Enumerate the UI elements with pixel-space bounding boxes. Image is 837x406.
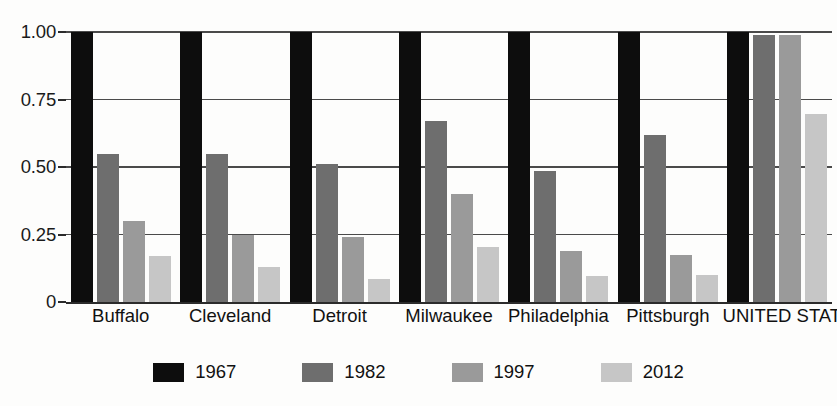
plot-area [66, 32, 832, 302]
legend-item: 1967 [153, 363, 236, 382]
bar-1967 [290, 32, 312, 302]
bar-1982 [97, 154, 119, 303]
bar-1997 [779, 35, 801, 302]
legend-label: 1997 [494, 363, 535, 382]
legend-swatch-icon [601, 363, 632, 382]
legend-item: 2012 [601, 363, 684, 382]
legend-item: 1997 [452, 363, 535, 382]
legend-label: 1967 [195, 363, 236, 382]
bar-1982 [644, 135, 666, 302]
bar-1967 [508, 32, 530, 302]
bar-2012 [696, 275, 718, 302]
bar-group [723, 32, 832, 302]
legend-label: 1982 [344, 363, 385, 382]
y-axis: 1.000.750.500.250 [0, 0, 56, 330]
bar-1997 [451, 194, 473, 302]
y-axis-tick-mark [58, 234, 66, 236]
bar-1982 [534, 171, 556, 302]
x-axis-tick-label: UNITED STATES [723, 306, 832, 326]
bar-1967 [71, 32, 93, 302]
x-axis-tick-label: Milwaukee [394, 306, 503, 326]
y-axis-tick-label: 0.50 [0, 158, 56, 177]
x-axis: BuffaloClevelandDetroitMilwaukeePhiladel… [66, 306, 832, 336]
bar-1997 [560, 251, 582, 302]
y-axis-tick-mark [58, 301, 66, 303]
bar-1982 [753, 35, 775, 302]
y-axis-tick-label: 0.75 [0, 91, 56, 110]
legend-item: 1982 [302, 363, 385, 382]
y-axis-tick-label: 0.25 [0, 226, 56, 245]
x-axis-tick-label: Philadelphia [504, 306, 613, 326]
bar-chart: 1.000.750.500.250 BuffaloClevelandDetroi… [0, 0, 837, 406]
x-axis-tick-label: Pittsburgh [613, 306, 722, 326]
y-axis-tick-label: 1.00 [0, 23, 56, 42]
y-axis-tick-mark [58, 31, 66, 33]
bar-2012 [586, 276, 608, 302]
bar-1967 [399, 32, 421, 302]
bar-1967 [180, 32, 202, 302]
bar-1997 [342, 237, 364, 302]
legend-swatch-icon [452, 363, 483, 382]
bar-group [394, 32, 503, 302]
y-axis-tick-label: 0 [0, 293, 56, 312]
chart-legend: 1967198219972012 [0, 355, 837, 389]
legend-swatch-icon [302, 363, 333, 382]
bar-2012 [368, 279, 390, 302]
x-axis-baseline [66, 302, 832, 304]
bar-1997 [670, 255, 692, 302]
bar-2012 [805, 114, 827, 302]
y-axis-tick-mark [58, 166, 66, 168]
x-axis-tick-label: Cleveland [175, 306, 284, 326]
bar-1982 [206, 154, 228, 303]
x-axis-tick-label: Detroit [285, 306, 394, 326]
bar-1997 [123, 221, 145, 302]
bar-group [66, 32, 175, 302]
legend-swatch-icon [153, 363, 184, 382]
bar-1982 [316, 164, 338, 302]
bar-1967 [727, 32, 749, 302]
bar-2012 [477, 247, 499, 302]
bar-2012 [258, 267, 280, 302]
y-axis-tick-mark [58, 99, 66, 101]
bar-2012 [149, 256, 171, 302]
bar-1982 [425, 121, 447, 302]
bar-group [613, 32, 722, 302]
bar-1967 [618, 32, 640, 302]
x-axis-tick-label: Buffalo [66, 306, 175, 326]
bar-group [175, 32, 284, 302]
bar-1997 [232, 235, 254, 303]
bar-group [504, 32, 613, 302]
bar-group [285, 32, 394, 302]
legend-label: 2012 [643, 363, 684, 382]
